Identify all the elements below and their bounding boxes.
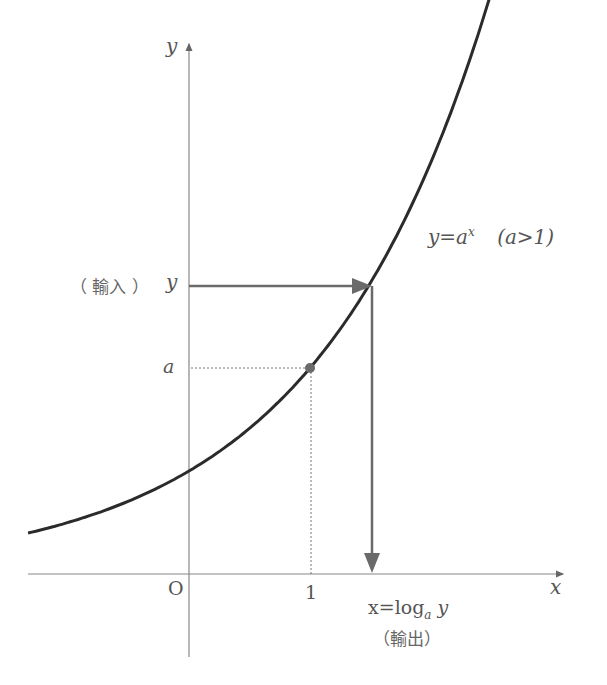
point-1-a	[305, 363, 315, 373]
output-eq-sub: a	[424, 608, 431, 622]
curve-eq-base: y=a	[428, 225, 468, 249]
x-axis-label: x	[550, 575, 561, 599]
output-eq-var: y	[438, 596, 449, 618]
y-axis-label: y	[166, 34, 177, 58]
output-label: （輸出）	[373, 625, 441, 650]
diagram	[0, 0, 607, 685]
output-equation: x=loga y	[368, 596, 448, 622]
input-var: y	[166, 270, 177, 294]
curve-eq-exp: x	[468, 225, 475, 239]
output-eq-prefix: x=log	[368, 596, 424, 618]
curve-equation: y=ax (a>1)	[428, 225, 554, 249]
y-tick-a: a	[163, 355, 174, 377]
curve-condition: (a>1)	[497, 225, 554, 249]
input-label: （ 輸入 ）	[70, 273, 149, 298]
x-tick-one: 1	[305, 581, 317, 603]
exp-curve	[28, 0, 489, 533]
output-arrowhead	[364, 553, 380, 573]
input-arrowhead	[352, 278, 372, 294]
origin-label: O	[168, 577, 184, 599]
